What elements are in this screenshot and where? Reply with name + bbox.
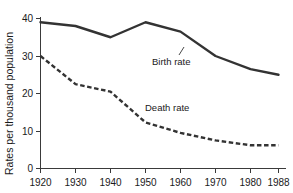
x-tick-label-1988: 1988: [267, 177, 290, 188]
y-tick-label-20: 20: [22, 88, 34, 99]
line-chart: Rates per thousand population 0 10 20 30…: [0, 0, 293, 193]
x-tick-label-1970: 1970: [204, 177, 227, 188]
x-axis-ticks: 1920 1930 1940 1950 1960 1970 1980 1988: [29, 169, 290, 189]
x-tick-label-1930: 1930: [64, 177, 87, 188]
y-axis-ticks: 0 10 20 30 40: [22, 13, 41, 174]
death-rate-label: Death rate: [145, 102, 189, 113]
death-rate-line: [41, 56, 279, 145]
birth-rate-label: Birth rate: [152, 56, 191, 67]
y-tick-label-10: 10: [22, 126, 34, 137]
death-rate-annotation-group: Death rate: [145, 102, 189, 113]
y-axis-title-group: Rates per thousand population: [3, 32, 15, 175]
chart-container: Rates per thousand population 0 10 20 30…: [0, 0, 293, 193]
y-tick-label-40: 40: [22, 13, 34, 24]
x-tick-label-1940: 1940: [99, 177, 122, 188]
birth-rate-leader-line: [179, 47, 184, 55]
y-tick-label-30: 30: [22, 51, 34, 62]
x-tick-label-1920: 1920: [29, 177, 52, 188]
x-tick-label-1950: 1950: [134, 177, 157, 188]
x-tick-label-1980: 1980: [239, 177, 262, 188]
birth-rate-annotation-group: Birth rate: [152, 47, 191, 67]
y-tick-label-0: 0: [27, 163, 33, 174]
y-axis-title: Rates per thousand population: [3, 32, 15, 175]
x-tick-label-1960: 1960: [169, 177, 192, 188]
